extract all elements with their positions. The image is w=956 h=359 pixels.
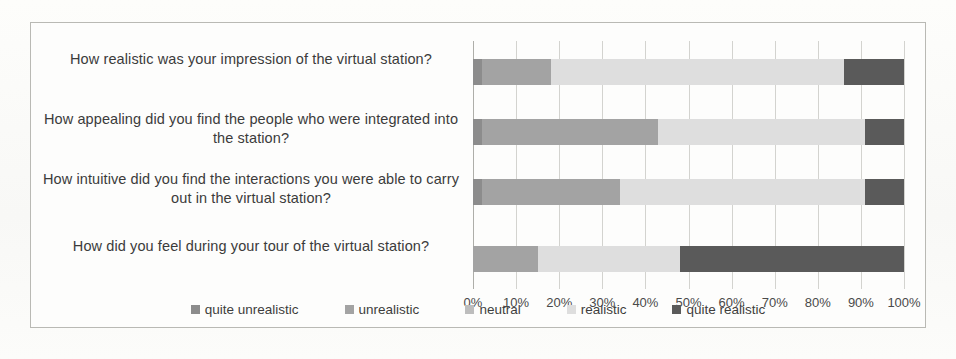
bar-segment-unrealistic[interactable] [482,179,620,205]
bar-segment-realistic[interactable] [620,179,866,205]
legend-swatch-icon [465,305,474,314]
legend-item[interactable]: neutral [465,302,520,317]
bar-segment-quite-unrealistic[interactable] [473,119,482,145]
bar-segment-realistic[interactable] [658,119,865,145]
bar-row[interactable]: How realistic was your impression of the… [473,59,904,85]
bar-segment-unrealistic[interactable] [473,246,538,272]
bar-segment-quite-realistic[interactable] [865,179,904,205]
bar-segment-quite-unrealistic[interactable] [473,59,482,85]
legend-label: quite realistic [686,302,765,317]
category-label: How realistic was your impression of the… [41,50,461,69]
bar-segment-quite-unrealistic[interactable] [473,179,482,205]
legend-swatch-icon [191,305,200,314]
category-label: How intuitive did you find the interacti… [41,170,461,208]
bar-row[interactable]: How appealing did you find the people wh… [473,119,904,145]
gridline [904,41,905,289]
legend-item[interactable]: quite realistic [672,302,765,317]
legend-label: realistic [581,302,627,317]
bar-segment-unrealistic[interactable] [482,59,551,85]
legend-item[interactable]: realistic [567,302,627,317]
legend-label: unrealistic [359,302,420,317]
chart-legend: quite unrealisticunrealisticneutralreali… [31,302,925,317]
legend-label: quite unrealistic [205,302,299,317]
legend-item[interactable]: quite unrealistic [191,302,299,317]
chart-frame: How realistic was your impression of the… [30,22,926,328]
bar-segment-quite-realistic[interactable] [865,119,904,145]
legend-swatch-icon [672,305,681,314]
bar-row[interactable]: How intuitive did you find the interacti… [473,179,904,205]
bar-segment-realistic[interactable] [551,59,844,85]
legend-item[interactable]: unrealistic [345,302,420,317]
category-label: How did you feel during your tour of the… [41,237,461,256]
bar-segment-realistic[interactable] [538,246,680,272]
chart-page: How realistic was your impression of the… [0,0,956,359]
legend-swatch-icon [345,305,354,314]
legend-label: neutral [479,302,520,317]
category-label: How appealing did you find the people wh… [41,110,461,148]
bar-segment-quite-realistic[interactable] [680,246,904,272]
bar-row[interactable]: How did you feel during your tour of the… [473,246,904,272]
bar-segment-quite-realistic[interactable] [844,59,904,85]
legend-swatch-icon [567,305,576,314]
plot-area: How realistic was your impression of the… [473,41,904,289]
bar-segment-unrealistic[interactable] [482,119,659,145]
